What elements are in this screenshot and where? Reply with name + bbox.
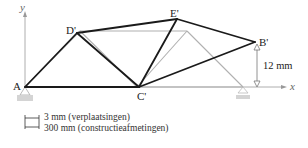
y-axis-label: y [20,2,25,13]
node-label-b-prime: B' [259,37,268,48]
node-label-c-prime: C' [137,91,146,102]
roller-support-b [236,87,250,99]
dimension-label: 12 mm [263,61,292,72]
displacement-dimension [254,44,260,87]
node-label-a: A [13,81,21,92]
deformed-truss [25,19,255,87]
node-label-e-prime: E' [170,8,179,19]
y-axis [23,11,27,87]
legend-scale-bars [25,115,39,129]
legend-item-dimensions: 300 mm (constructieafmetingen) [44,124,169,134]
legend-item-displacements: 3 mm (verplaatsingen) [44,113,130,123]
node-label-d-prime: D' [66,25,76,36]
x-axis-label: x [290,81,295,92]
